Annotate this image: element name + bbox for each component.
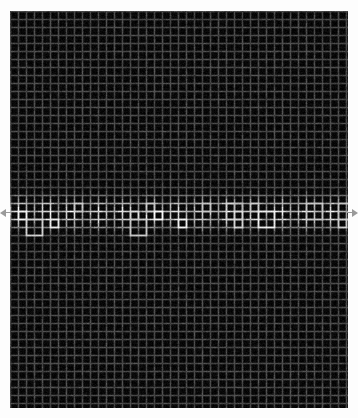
stimulus-figure: Scintillating grid contrast-band stimulu… (0, 0, 358, 418)
left-pointer-shaft (6, 212, 11, 213)
left-edge-pointer-icon (0, 209, 6, 217)
grid-plate (10, 11, 348, 408)
right-edge-pointer-icon (352, 209, 358, 217)
right-pointer-shaft (347, 212, 352, 213)
grid-canvas (10, 11, 348, 408)
figure-title: Scintillating grid contrast-band stimulu… (0, 0, 1, 1)
figure-description: Dark square grid with thin light lines; … (0, 0, 1, 1)
